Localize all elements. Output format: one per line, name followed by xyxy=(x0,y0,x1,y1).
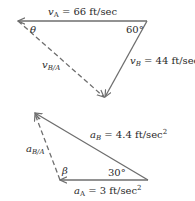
velocity-triangle: vA = 66 ft/sec θ 60° vB/A vB = 44 ft/sec xyxy=(18,6,195,97)
vector-diagram: vA = 66 ft/sec θ 60° vB/A vB = 44 ft/sec… xyxy=(0,0,195,201)
acceleration-triangle: aB = 4.4 ft/sec2 aB/A β 30° aA = 3 ft/se… xyxy=(26,113,167,198)
vB-label: vB = 44 ft/sec xyxy=(130,55,195,68)
aA-label: aA = 3 ft/sec2 xyxy=(74,184,142,198)
vA-label: vA = 66 ft/sec xyxy=(48,6,117,19)
aB-label: aB = 4.4 ft/sec2 xyxy=(90,128,167,142)
angle-30-label: 30° xyxy=(108,167,126,178)
aB-arrow xyxy=(35,113,148,180)
aBA-arrow xyxy=(35,114,60,180)
beta-label: β xyxy=(61,165,68,176)
theta-label: θ xyxy=(30,24,36,35)
vBA-label: vB/A xyxy=(42,59,60,72)
aBA-label: aB/A xyxy=(26,143,45,156)
angle-60-label: 60° xyxy=(126,24,144,35)
